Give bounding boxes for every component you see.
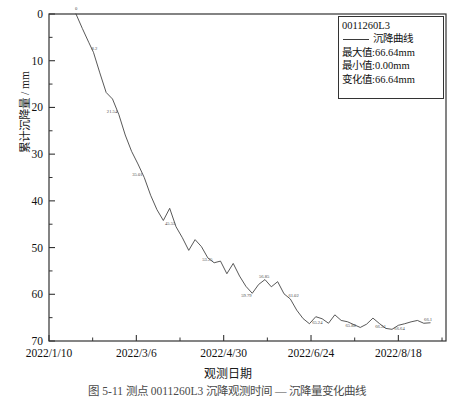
legend-series-label: 沉降曲线 bbox=[373, 32, 413, 45]
y-axis-title: 累计沉降量 / mm bbox=[16, 32, 32, 192]
data-point-label: 53.25 bbox=[202, 257, 213, 262]
data-point-label: 65.24 bbox=[312, 320, 323, 325]
figure-caption: 图 5-11 测点 0011260L3 沉降观测时间 — 沉降量变化曲线 bbox=[0, 382, 455, 398]
data-point-label: 56.85 bbox=[259, 274, 270, 279]
data-point-label: 66.64 bbox=[394, 326, 405, 331]
x-tick-label: 2022/4/30 bbox=[200, 347, 247, 359]
x-tick-label: 2022/8/18 bbox=[375, 347, 422, 359]
data-point-label: 61.02 bbox=[288, 293, 299, 298]
legend-change-value: 变化值:66.64mm bbox=[342, 73, 443, 86]
y-tick-label: 70 bbox=[32, 335, 44, 347]
data-point-label: 59.79 bbox=[241, 293, 252, 298]
y-axis-ticks: 010203040506070 bbox=[32, 8, 56, 347]
x-axis-title: 观测日期 bbox=[0, 364, 455, 382]
data-point-label: 21.54 bbox=[107, 109, 118, 114]
y-tick-label: 50 bbox=[32, 242, 44, 254]
x-tick-label: 2022/1/10 bbox=[26, 347, 73, 359]
data-point-label: 65.88 bbox=[346, 323, 357, 328]
data-point-label: 66.1 bbox=[424, 317, 433, 322]
data-point-label: 45.55 bbox=[165, 221, 176, 226]
data-point-label: 0 bbox=[75, 6, 78, 11]
y-tick-label: 20 bbox=[32, 101, 44, 113]
data-point-label: 66.24 bbox=[375, 324, 386, 329]
legend-line-swatch bbox=[343, 39, 369, 40]
y-tick-label: 0 bbox=[37, 8, 43, 20]
x-tick-label: 2022/3/6 bbox=[116, 347, 157, 359]
legend-max-value: 最大值:66.64mm bbox=[342, 46, 443, 59]
legend-id: 0011260L3 bbox=[342, 19, 443, 32]
data-point-label: 8.2 bbox=[91, 46, 97, 51]
legend-box: 0011260L3 沉降曲线 最大值:66.64mm 最小值:0.00mm 变化… bbox=[338, 16, 444, 99]
legend-min-value: 最小值:0.00mm bbox=[342, 59, 443, 72]
y-tick-label: 10 bbox=[32, 55, 44, 67]
y-tick-label: 30 bbox=[32, 148, 44, 160]
data-point-label: 35.01 bbox=[132, 172, 143, 177]
legend-series-row: 沉降曲线 bbox=[342, 32, 443, 45]
x-tick-label: 2022/6/24 bbox=[288, 347, 335, 359]
y-tick-label: 60 bbox=[32, 288, 44, 300]
y-tick-label: 40 bbox=[32, 195, 44, 207]
x-axis-ticks: 2022/1/102022/3/62022/4/302022/6/242022/… bbox=[26, 335, 442, 359]
